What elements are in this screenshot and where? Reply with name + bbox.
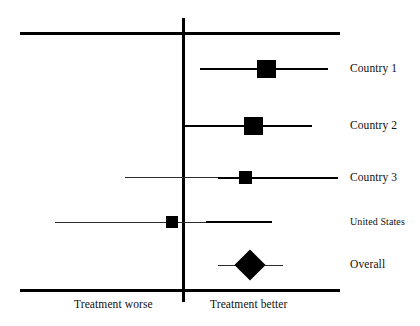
axis-label-treatment-better: Treatment better [210,298,288,310]
top-axis-rule [20,32,340,35]
effect-estimate-marker [257,60,276,78]
effect-estimate-marker [166,216,178,228]
axis-label-treatment-worse: Treatment worse [74,298,153,310]
null-effect-line [182,18,185,302]
study-label-overall: Overall [350,258,385,270]
effect-estimate-marker [244,117,263,135]
confidence-interval-line-right [218,177,338,179]
effect-estimate-marker [239,171,252,184]
study-label-united-states: United States [350,216,405,227]
pooled-effect-diamond [234,249,265,280]
study-label-country-3: Country 3 [350,171,397,183]
bottom-axis-rule [20,289,340,292]
confidence-interval-line-left [55,222,215,223]
study-label-country-2: Country 2 [350,119,397,131]
forest-plot: Country 1 Country 2 Country 3 United Sta… [0,0,420,326]
confidence-interval-line-right [206,221,272,223]
study-label-country-1: Country 1 [350,62,397,74]
